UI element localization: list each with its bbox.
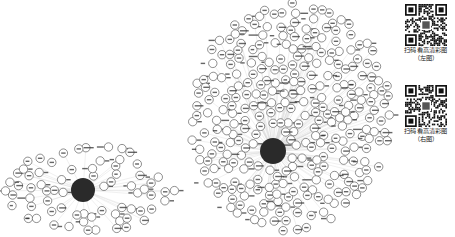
graph-node[interactable] xyxy=(296,86,304,94)
graph-node[interactable] xyxy=(301,111,309,119)
graph-node[interactable] xyxy=(88,164,96,172)
graph-node[interactable] xyxy=(32,214,40,222)
graph-node[interactable] xyxy=(217,74,225,82)
graph-node[interactable] xyxy=(260,208,268,216)
graph-node[interactable] xyxy=(196,145,204,153)
graph-node[interactable] xyxy=(35,168,43,176)
graph-node[interactable] xyxy=(240,165,248,173)
graph-node[interactable] xyxy=(212,116,220,124)
graph-node[interactable] xyxy=(100,182,108,190)
graph-node[interactable] xyxy=(298,154,306,162)
graph-node[interactable] xyxy=(57,176,65,184)
graph-node[interactable] xyxy=(265,183,273,191)
graph-node[interactable] xyxy=(364,176,372,184)
graph-node[interactable] xyxy=(210,164,218,172)
graph-node[interactable] xyxy=(284,119,292,127)
graph-node[interactable] xyxy=(246,180,254,188)
graph-node[interactable] xyxy=(267,202,275,210)
graph-node[interactable] xyxy=(341,108,349,116)
graph-node[interactable] xyxy=(300,98,308,106)
graph-node[interactable] xyxy=(266,166,274,174)
graph-node[interactable] xyxy=(259,31,267,39)
graph-node[interactable] xyxy=(154,173,162,181)
graph-node[interactable] xyxy=(327,214,335,222)
graph-node[interactable] xyxy=(250,215,258,223)
graph-node[interactable] xyxy=(209,72,217,80)
graph-node[interactable] xyxy=(215,36,223,44)
graph-node[interactable] xyxy=(319,208,327,216)
graph-node[interactable] xyxy=(305,54,313,62)
graph-node[interactable] xyxy=(127,205,135,213)
graph-node[interactable] xyxy=(213,125,221,133)
hub-node[interactable] xyxy=(71,178,95,202)
graph-node[interactable] xyxy=(26,194,34,202)
graph-node[interactable] xyxy=(204,179,212,187)
graph-node[interactable] xyxy=(96,157,104,165)
graph-node[interactable] xyxy=(65,222,73,230)
graph-node[interactable] xyxy=(127,182,135,190)
graph-node[interactable] xyxy=(313,59,321,67)
graph-node[interactable] xyxy=(361,158,369,166)
graph-node[interactable] xyxy=(209,59,217,67)
graph-node[interactable] xyxy=(188,136,196,144)
graph-node[interactable] xyxy=(317,93,325,101)
qr-code-icon[interactable] xyxy=(405,85,447,127)
graph-node[interactable] xyxy=(267,99,275,107)
graph-node[interactable] xyxy=(365,134,373,142)
graph-node[interactable] xyxy=(203,109,211,117)
graph-node[interactable] xyxy=(288,154,296,162)
graph-node[interactable] xyxy=(6,178,14,186)
graph-node[interactable] xyxy=(196,156,204,164)
graph-node[interactable] xyxy=(337,16,345,24)
graph-node[interactable] xyxy=(140,185,148,193)
graph-node[interactable] xyxy=(327,118,335,126)
graph-node[interactable] xyxy=(338,122,346,130)
graph-node[interactable] xyxy=(104,143,112,151)
graph-node[interactable] xyxy=(271,39,279,47)
graph-node[interactable] xyxy=(340,156,348,164)
graph-node[interactable] xyxy=(312,132,320,140)
graph-node[interactable] xyxy=(170,186,178,194)
graph-node[interactable] xyxy=(1,187,9,195)
graph-node[interactable] xyxy=(88,213,96,221)
graph-node[interactable] xyxy=(309,15,317,23)
graph-node[interactable] xyxy=(313,156,321,164)
graph-node[interactable] xyxy=(92,226,100,234)
graph-node[interactable] xyxy=(290,77,298,85)
graph-node[interactable] xyxy=(316,82,324,90)
qr-code-icon[interactable] xyxy=(405,4,447,46)
graph-node[interactable] xyxy=(362,125,370,133)
graph-node[interactable] xyxy=(265,58,273,66)
graph-node[interactable] xyxy=(263,23,271,31)
graph-node[interactable] xyxy=(335,47,343,55)
graph-node[interactable] xyxy=(258,52,266,60)
graph-node[interactable] xyxy=(79,218,87,226)
graph-node[interactable] xyxy=(330,171,338,179)
graph-node[interactable] xyxy=(357,96,365,104)
graph-node[interactable] xyxy=(291,9,299,17)
graph-node[interactable] xyxy=(279,179,287,187)
qr-block-left[interactable]: 扫码看高清彩图 （左图） xyxy=(403,4,449,62)
qr-block-right[interactable]: 扫码看高清彩图 （右图） xyxy=(403,85,449,143)
graph-node[interactable] xyxy=(223,150,231,158)
graph-node[interactable] xyxy=(252,90,260,98)
graph-node[interactable] xyxy=(290,173,298,181)
graph-node[interactable] xyxy=(249,140,257,148)
graph-node[interactable] xyxy=(116,155,124,163)
graph-node[interactable] xyxy=(324,195,332,203)
graph-node[interactable] xyxy=(223,127,231,135)
graph-node[interactable] xyxy=(227,203,235,211)
graph-node[interactable] xyxy=(279,32,287,40)
graph-node[interactable] xyxy=(350,143,358,151)
graph-node[interactable] xyxy=(118,144,126,152)
graph-node[interactable] xyxy=(352,190,360,198)
graph-node[interactable] xyxy=(268,87,276,95)
hub-node[interactable] xyxy=(260,138,286,164)
graph-node[interactable] xyxy=(385,111,393,119)
graph-node[interactable] xyxy=(161,197,169,205)
graph-node[interactable] xyxy=(333,84,341,92)
graph-node[interactable] xyxy=(325,56,333,64)
graph-node[interactable] xyxy=(59,188,67,196)
graph-node[interactable] xyxy=(19,165,27,173)
graph-node[interactable] xyxy=(292,141,300,149)
